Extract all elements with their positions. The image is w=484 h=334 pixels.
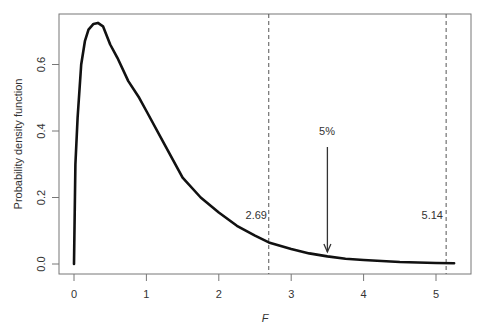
y-tick-label: 0.2 xyxy=(35,190,47,205)
density-curve xyxy=(74,23,454,264)
y-tick-label: 0.4 xyxy=(35,123,47,138)
x-axis: 012345 xyxy=(71,274,439,300)
tail-percent-label: 5% xyxy=(319,125,335,137)
plot-frame xyxy=(59,14,471,274)
reference-lines xyxy=(269,14,446,274)
x-tick-label: 4 xyxy=(361,288,367,300)
y-axis: 0.00.20.40.6 xyxy=(35,57,59,272)
x-tick-label: 5 xyxy=(433,288,439,300)
tail-arrow xyxy=(324,147,331,252)
y-axis-label: Probability density function xyxy=(12,79,24,210)
x-axis-label: F xyxy=(262,312,270,324)
x-tick-label: 3 xyxy=(288,288,294,300)
y-tick-label: 0.0 xyxy=(35,256,47,271)
critical-value-label-2: 5.14 xyxy=(422,209,443,221)
x-tick-label: 0 xyxy=(71,288,77,300)
critical-value-label-1: 2.69 xyxy=(246,209,267,221)
chart-svg: 012345 0.00.20.40.6 2.69 5.14 5% F Proba… xyxy=(0,0,484,334)
f-distribution-chart: 012345 0.00.20.40.6 2.69 5.14 5% F Proba… xyxy=(0,0,484,334)
x-tick-label: 2 xyxy=(216,288,222,300)
x-tick-label: 1 xyxy=(143,288,149,300)
y-tick-label: 0.6 xyxy=(35,57,47,72)
